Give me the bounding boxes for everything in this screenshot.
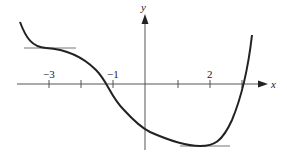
tick-label-minus-1: −1 — [107, 68, 119, 80]
tick-label-2: 2 — [207, 68, 213, 80]
tick-label-minus-3: −3 — [43, 68, 55, 80]
x-axis-arrow-icon — [258, 81, 268, 88]
y-axis-label: y — [140, 1, 146, 13]
y-axis-arrow-icon — [142, 14, 149, 24]
x-axis-label: x — [270, 78, 276, 90]
function-graph: x y −3 −1 2 — [0, 0, 287, 157]
